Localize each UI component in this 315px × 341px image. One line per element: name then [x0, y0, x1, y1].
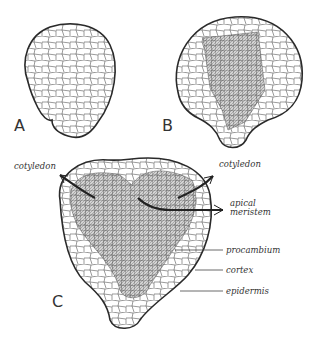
label-meristem: meristem — [230, 208, 271, 217]
embryo-b — [176, 17, 302, 148]
panel-label-a: A — [14, 116, 25, 135]
embryo-c — [60, 158, 223, 328]
label-cotyledon-right: cotyledon — [219, 160, 261, 169]
label-cotyledon-left: cotyledon — [14, 162, 56, 171]
label-procambium: procambium — [226, 246, 280, 255]
panel-label-c: C — [52, 292, 63, 311]
label-cortex: cortex — [226, 266, 253, 275]
panel-label-b: B — [162, 116, 173, 135]
label-epidermis: epidermis — [226, 287, 269, 296]
embryo-a — [25, 24, 115, 138]
